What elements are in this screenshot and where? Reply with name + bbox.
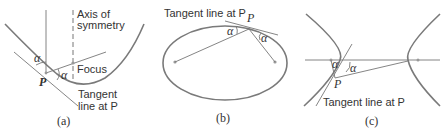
tangent-label-c: Tangent line at P [323,96,405,108]
focus-point [71,61,74,64]
angle-label-c2: α [350,61,357,75]
focus-label: Focus [77,63,107,75]
angle-label-c1: α [332,57,339,71]
panel-c-hyperbola: α α P Tangent line at P (c) [304,14,440,128]
caption-a: (a) [57,114,70,128]
angle-label-a1: α [34,51,41,65]
caption-b: (b) [216,111,230,125]
point-label-a: P [39,75,47,89]
panel-b-ellipse: Tangent line at P P α α (b) [163,7,287,125]
angle-label-b2: α [261,31,268,45]
tangent-label-a-line1: Tangent [78,88,117,100]
panel-a-parabola: α α P Axis of symmetry Focus Tangent lin… [5,8,144,128]
caption-c: (c) [365,114,378,128]
focus-right-c [417,59,420,62]
ellipse-curve [163,26,287,100]
tangent-label-a-line2: line at P [78,100,118,112]
point-p-a [45,72,48,75]
angle-label-b1: α [227,24,234,38]
point-label-b: P [246,11,255,25]
point-label-c: P [333,77,342,91]
axis-label-line2: symmetry [77,19,125,31]
ray-to-right-focus-c [335,61,408,78]
parabola-curve [5,24,144,84]
angle-label-a2: α [61,68,68,82]
reflection-properties-diagram: α α P Axis of symmetry Focus Tangent lin… [0,0,448,132]
tangent-label-b: Tangent line at P [164,7,246,19]
